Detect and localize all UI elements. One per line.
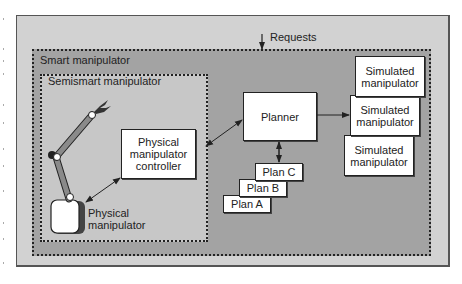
robot-arm-icon: [48, 100, 111, 234]
controller-planner-arrow-icon: [206, 120, 242, 146]
left-edge-marks: [2, 0, 8, 284]
controller-manipulator-arrow-icon: [86, 178, 120, 202]
diagram-connectors: [0, 0, 462, 284]
